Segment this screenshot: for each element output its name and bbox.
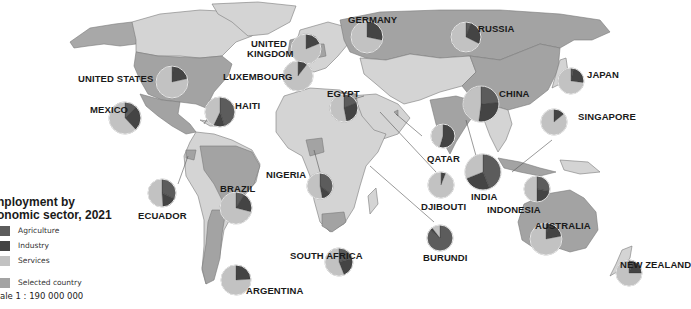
label-luxembourg: LUXEMBOURG [223, 72, 293, 82]
new-guinea [560, 160, 600, 174]
label-united-states: UNITED STATES [78, 74, 153, 84]
legend: nployment by onomic sector, 2021 Agricul… [0, 196, 130, 222]
pie-chart-qatar [429, 122, 457, 150]
pie-chart-haiti [203, 95, 237, 129]
label-indonesia: INDONESIA [487, 205, 541, 215]
map-scale: ale 1 : 190 000 000 [0, 291, 83, 301]
label-japan: JAPAN [587, 70, 619, 80]
pie-chart-india [463, 152, 503, 192]
label-nigeria: NIGERIA [266, 170, 306, 180]
pie-chart-singapore [539, 107, 569, 137]
legend-label: Selected country [18, 278, 82, 288]
pie-chart-japan [556, 66, 586, 96]
pie-chart-ecuador [146, 177, 178, 209]
pie-chart-united-states [154, 64, 190, 100]
south-africa [322, 212, 346, 232]
label-china: CHINA [499, 89, 530, 99]
label-australia: AUSTRALIA [535, 221, 591, 231]
label-united-kingdom-text: UNITEDKINGDOM [247, 38, 294, 59]
label-united-kingdom: UNITEDKINGDOM [247, 39, 291, 59]
alaska [70, 22, 140, 48]
label-russia: RUSSIA [478, 24, 515, 34]
label-singapore: SINGAPORE [578, 112, 636, 122]
legend-label: Services [18, 256, 50, 266]
pie-chart-china [461, 84, 501, 124]
legend-title: nployment by onomic sector, 2021 [0, 196, 130, 222]
madagascar [368, 188, 378, 214]
legend-label: Industry [18, 241, 49, 251]
label-germany: GERMANY [348, 15, 397, 25]
legend-title-line2: onomic sector, 2021 [0, 209, 130, 222]
label-haiti: HAITI [235, 101, 260, 111]
label-ecuador: ECUADOR [138, 211, 187, 221]
pie-chart-indonesia [522, 174, 552, 204]
label-south-africa: SOUTH AFRICA [290, 251, 363, 261]
label-qatar: QATAR [427, 154, 460, 164]
label-djibouti: DJIBOUTI [421, 202, 466, 212]
pie-chart-nigeria [305, 171, 335, 201]
label-mexico: MEXICO [90, 105, 128, 115]
label-burundi: BURUNDI [423, 253, 468, 263]
label-egypt: EGYPT [327, 89, 360, 99]
agriculture-swatch-icon [0, 226, 10, 236]
services-swatch-icon [0, 256, 10, 266]
pie-chart-brazil [218, 190, 254, 226]
label-india: INDIA [471, 192, 497, 202]
pie-chart-djibouti [426, 170, 456, 200]
selected-country-swatch-icon [0, 278, 10, 288]
ecuador [186, 150, 196, 160]
pie-chart-burundi [425, 223, 455, 253]
label-argentina: ARGENTINA [246, 286, 303, 296]
label-new-zealand: NEW ZEALAND [620, 260, 691, 270]
industry-swatch-icon [0, 241, 10, 251]
label-brazil: BRAZIL [220, 184, 255, 194]
legend-label: Agriculture [18, 226, 59, 236]
